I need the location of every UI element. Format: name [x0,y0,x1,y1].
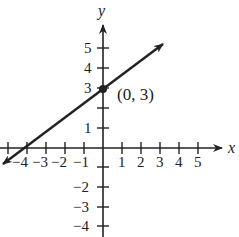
x-tick-label: 3 [156,154,164,170]
x-tick-label: −2 [51,154,67,170]
x-axis-label: x [227,139,235,156]
coordinate-plane: y x −4 −3 −2 −1 1 2 3 4 5 5 4 3 1 −2 −3 … [0,0,239,237]
y-tick-label: −3 [73,199,89,215]
point-0-3 [99,85,107,93]
y-tick-label: −2 [73,179,89,195]
x-tick-label: −3 [32,154,48,170]
x-tick-label: 4 [175,154,183,170]
y-tick-label: 1 [84,120,92,136]
y-tick-labels: 5 4 3 1 −2 −3 −4 [73,40,92,234]
y-tick-label: −4 [73,218,89,234]
point-label: (0, 3) [117,85,154,104]
y-tick-label: 5 [84,40,92,56]
x-tick-label: 5 [194,154,202,170]
x-tick-label: −1 [73,154,89,170]
y-tick-label: 4 [84,60,92,76]
x-tick-label: 1 [118,154,126,170]
line-series [103,44,163,89]
x-tick-label: 2 [137,154,145,170]
y-axis-label: y [96,2,106,20]
y-tick-label: 3 [84,80,92,96]
